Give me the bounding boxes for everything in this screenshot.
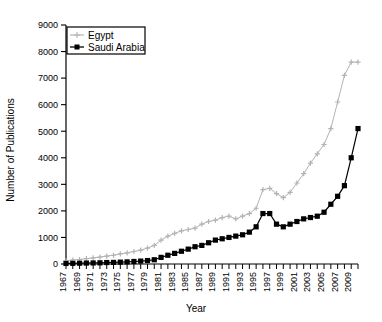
- y-tick-label: 4000: [38, 153, 58, 163]
- data-point: [70, 261, 75, 266]
- y-tick-label: 6000: [38, 100, 58, 110]
- data-point: [206, 219, 211, 224]
- data-point: [240, 214, 245, 219]
- data-point: [145, 245, 150, 250]
- data-point: [138, 258, 143, 263]
- data-point: [349, 60, 354, 65]
- x-tick-label: 1989: [207, 272, 217, 292]
- data-point: [91, 255, 96, 260]
- data-point: [260, 211, 265, 216]
- data-point: [342, 73, 347, 78]
- data-point: [274, 222, 279, 227]
- data-point: [335, 99, 340, 104]
- data-point: [111, 253, 116, 258]
- series-egypt: [63, 60, 360, 264]
- data-point: [328, 126, 333, 131]
- x-tick-label: 1993: [235, 272, 245, 292]
- y-tick-label: 8000: [38, 47, 58, 57]
- x-tick-label: 1983: [167, 272, 177, 292]
- data-point: [294, 219, 299, 224]
- data-point: [131, 259, 136, 264]
- data-point: [192, 226, 197, 231]
- series-layer: [63, 60, 360, 266]
- data-point: [165, 253, 170, 258]
- data-point: [186, 227, 191, 232]
- data-point: [186, 247, 191, 252]
- x-axis-title-text: Year: [186, 303, 207, 314]
- chart-canvas: Number of Publications 01000200030004000…: [0, 0, 382, 322]
- data-point: [233, 234, 238, 239]
- data-point: [213, 218, 218, 223]
- y-tick-label: 2000: [38, 206, 58, 216]
- data-point: [172, 251, 177, 256]
- data-point: [97, 260, 102, 265]
- x-tick-label: 1985: [180, 272, 190, 292]
- data-point: [179, 228, 184, 233]
- data-point: [355, 60, 360, 65]
- data-point: [260, 187, 265, 192]
- x-tick-label: 1987: [194, 272, 204, 292]
- legend-label-saudi-arabia: Saudi Arabia: [88, 42, 145, 53]
- y-tick-label: 7000: [38, 73, 58, 83]
- data-point: [220, 236, 225, 241]
- data-point: [342, 183, 347, 188]
- data-point: [226, 235, 231, 240]
- data-point: [240, 232, 245, 237]
- data-point: [138, 248, 143, 253]
- y-axis-title-text: Number of Publications: [5, 98, 16, 201]
- data-point: [131, 249, 136, 254]
- data-point: [118, 251, 123, 256]
- x-tick-label: 1977: [126, 272, 136, 292]
- y-tick-label: 5000: [38, 127, 58, 137]
- legend-label-egypt: Egypt: [88, 30, 114, 41]
- data-point: [321, 210, 326, 215]
- square-icon: [75, 45, 80, 50]
- data-point: [301, 216, 306, 221]
- x-tick-label: 1995: [248, 272, 258, 292]
- data-point: [104, 260, 109, 265]
- data-point: [84, 260, 89, 265]
- data-point: [125, 250, 130, 255]
- data-point: [199, 243, 204, 248]
- data-point: [125, 259, 130, 264]
- data-point: [315, 214, 320, 219]
- x-tick-label: 2007: [330, 272, 340, 292]
- x-tick-label: 2005: [316, 272, 326, 292]
- x-tick-label: 1973: [99, 272, 109, 292]
- data-point: [165, 234, 170, 239]
- x-tick-label: 1991: [221, 272, 231, 292]
- data-point: [145, 258, 150, 263]
- y-tick-label: 0: [53, 259, 58, 269]
- x-tick-label: 2009: [343, 272, 353, 292]
- data-point: [247, 230, 252, 235]
- data-point: [172, 231, 177, 236]
- x-tick-label: 2001: [289, 272, 299, 292]
- y-tick-label: 1000: [38, 233, 58, 243]
- data-point: [308, 215, 313, 220]
- chart-legend: Egypt Saudi Arabia: [67, 27, 145, 54]
- data-point: [111, 260, 116, 265]
- y-axis-ticks: 0100020003000400050006000700080009000: [38, 20, 66, 269]
- y-tick-label: 3000: [38, 180, 58, 190]
- data-point: [158, 255, 163, 260]
- data-point: [254, 224, 259, 229]
- data-point: [77, 261, 82, 266]
- data-point: [220, 215, 225, 220]
- x-tick-label: 1979: [139, 272, 149, 292]
- data-point: [349, 155, 354, 160]
- y-axis-title: Number of Publications: [5, 98, 16, 201]
- data-point: [328, 202, 333, 207]
- y-tick-label: 9000: [38, 20, 58, 30]
- data-point: [267, 211, 272, 216]
- x-tick-label: 1981: [153, 272, 163, 292]
- data-point: [287, 222, 292, 227]
- data-point: [226, 214, 231, 219]
- x-tick-label: 1975: [112, 272, 122, 292]
- x-axis-ticks: 1967196919711973197519771979198119831985…: [58, 264, 358, 292]
- x-tick-label: 1997: [262, 272, 272, 292]
- data-point: [233, 216, 238, 221]
- data-point: [152, 257, 157, 262]
- x-tick-label: 1969: [72, 272, 82, 292]
- data-point: [281, 224, 286, 229]
- data-point: [63, 261, 68, 266]
